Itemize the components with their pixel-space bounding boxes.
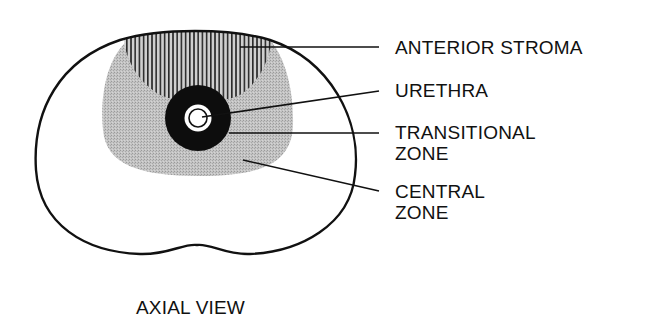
label-urethra: URETHRA: [395, 80, 488, 101]
label-line: CENTRAL: [395, 181, 485, 202]
label-central-zone: CENTRAL ZONE: [395, 181, 485, 223]
label-anterior-stroma: ANTERIOR STROMA: [395, 37, 583, 58]
label-transitional-zone: TRANSITIONAL ZONE: [395, 122, 536, 164]
label-line: ZONE: [395, 202, 485, 223]
label-line: ANTERIOR STROMA: [395, 37, 583, 58]
label-line: ZONE: [395, 143, 536, 164]
diagram-caption: AXIAL VIEW: [136, 297, 245, 319]
label-line: TRANSITIONAL: [395, 122, 536, 143]
label-line: URETHRA: [395, 80, 488, 101]
leader-line-central-zone: [243, 160, 379, 191]
